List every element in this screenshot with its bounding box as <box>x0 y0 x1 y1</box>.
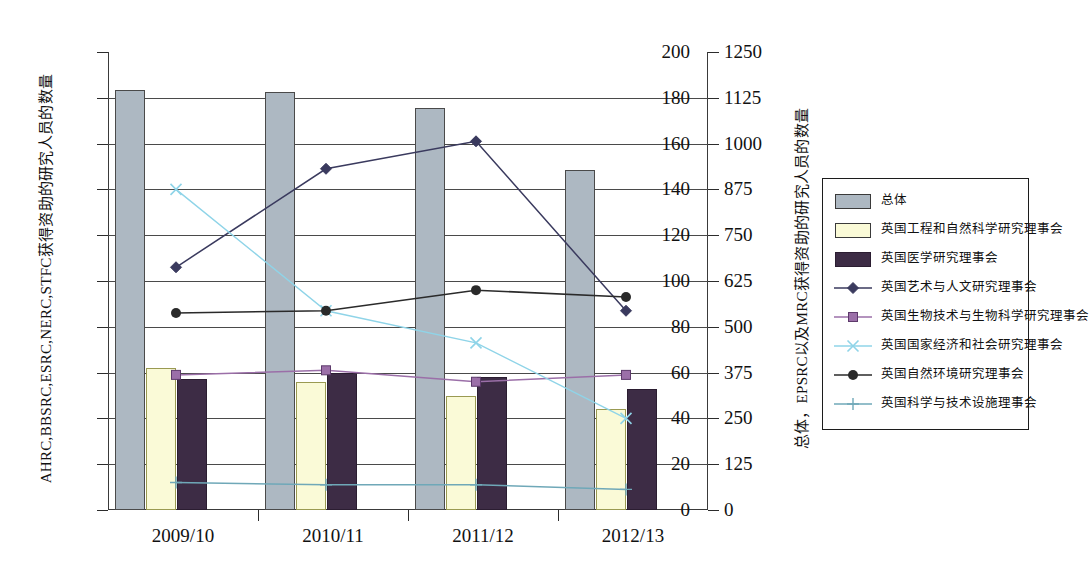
legend-item[interactable]: 英国自然环境研究理事会 <box>831 360 1022 389</box>
square-marker <box>622 370 631 379</box>
legend-item-label: 英国艺术与人文研究理事会 <box>881 281 1037 294</box>
y-axis-right-tick-label: 375 <box>724 363 784 382</box>
y-axis-right-tick-label: 1250 <box>724 42 784 61</box>
square-marker <box>472 377 481 386</box>
y-axis-right-tick-label: 0 <box>724 500 784 519</box>
x-axis-tick-label: 2012/13 <box>553 526 713 545</box>
plus-marker <box>320 479 332 491</box>
circle-marker <box>848 370 858 380</box>
y-axis-right-tick <box>708 281 719 282</box>
y-axis-left-tick <box>97 235 108 236</box>
square-marker <box>849 312 858 321</box>
legend-marker-cross <box>831 337 875 355</box>
line-path <box>176 141 626 310</box>
x-axis-tick-label: 2011/12 <box>403 526 563 545</box>
y-axis-left-tick <box>97 189 108 190</box>
legend-item[interactable]: 英国科学与技术设施理事会 <box>831 389 1022 418</box>
x-axis-tick <box>258 510 259 521</box>
y-axis-right-tick-label: 750 <box>724 225 784 244</box>
square-marker <box>322 366 331 375</box>
y-axis-left-tick <box>97 281 108 282</box>
y-axis-right-tick <box>708 464 719 465</box>
plus-marker <box>170 477 182 489</box>
diamond-marker <box>171 262 182 273</box>
legend-marker-plus <box>831 395 875 413</box>
x-axis-tick-label: 2009/10 <box>103 526 263 545</box>
legend-marker-diamond <box>831 279 875 297</box>
legend-item-label: 英国工程和自然科学研究理事会 <box>881 223 1063 236</box>
y-axis-right-tick-label: 125 <box>724 454 784 473</box>
legend-marker-swatch-mrc <box>831 250 875 268</box>
y-axis-right-tick <box>708 144 719 145</box>
legend-item-label: 英国生物技术与生物科学研究理事会 <box>881 310 1089 323</box>
circle-icon <box>831 366 875 384</box>
legend-item[interactable]: 英国艺术与人文研究理事会 <box>831 273 1022 302</box>
x-axis-tick <box>558 510 559 521</box>
legend-item-label: 英国医学研究理事会 <box>881 252 998 265</box>
line-path <box>176 290 626 313</box>
y-axis-left-tick <box>97 98 108 99</box>
plus-marker <box>620 483 632 495</box>
plus-icon <box>831 395 875 413</box>
legend-item[interactable]: 英国医学研究理事会 <box>831 244 1022 273</box>
y-axis-left-tick <box>97 373 108 374</box>
y-axis-left-tick <box>97 52 108 53</box>
legend-marker-swatch-total <box>831 192 875 210</box>
y-axis-right-tick <box>708 418 719 419</box>
cross-marker <box>471 337 482 348</box>
x-axis-tick <box>408 510 409 521</box>
circle-marker <box>171 308 181 318</box>
y-axis-right-tick <box>708 373 719 374</box>
square-icon <box>831 308 875 326</box>
legend-marker-circle <box>831 366 875 384</box>
legend-item[interactable]: 英国国家经济和社会研究理事会 <box>831 331 1022 360</box>
y-axis-right-tick <box>708 52 719 53</box>
y-axis-left-tick <box>97 510 108 511</box>
y-axis-right-tick <box>708 98 719 99</box>
line-path <box>176 483 626 490</box>
legend-item-label: 英国自然环境研究理事会 <box>881 368 1024 381</box>
legend-item-label: 英国国家经济和社会研究理事会 <box>881 339 1063 352</box>
legend-item[interactable]: 英国生物技术与生物科学研究理事会 <box>831 302 1022 331</box>
y-axis-left-tick <box>97 464 108 465</box>
line-series <box>171 285 631 318</box>
legend-marker-square <box>831 308 875 326</box>
x-axis-tick-label: 2010/11 <box>253 526 413 545</box>
y-axis-right-tick-label: 875 <box>724 179 784 198</box>
y-axis-right-tick <box>708 189 719 190</box>
line-series <box>172 366 631 386</box>
diamond-marker <box>848 282 859 293</box>
line-path <box>176 370 626 381</box>
circle-marker <box>621 292 631 302</box>
y-axis-left-title: AHRC,BBSRC,ESRC,NERC,STFC获得资助的研究人员的数量 <box>34 19 55 539</box>
line-series-layer <box>108 52 708 510</box>
legend-item-label: 总体 <box>881 194 907 207</box>
y-axis-left-tick <box>97 144 108 145</box>
swatch-mrc-icon <box>835 252 871 267</box>
y-axis-right-tick <box>708 327 719 328</box>
y-axis-right-tick-label: 625 <box>724 271 784 290</box>
circle-marker <box>471 285 481 295</box>
y-axis-right-tick <box>708 510 719 511</box>
y-axis-left-tick <box>97 327 108 328</box>
legend-marker-swatch-epsrc <box>831 221 875 239</box>
square-marker <box>172 370 181 379</box>
plus-marker <box>847 398 859 410</box>
cross-icon <box>831 337 875 355</box>
line-series <box>171 136 632 316</box>
circle-marker <box>321 306 331 316</box>
cross-marker <box>621 413 632 424</box>
legend-item[interactable]: 英国工程和自然科学研究理事会 <box>831 215 1022 244</box>
y-axis-right-tick-label: 500 <box>724 317 784 336</box>
y-axis-right-tick-label: 1000 <box>724 134 784 153</box>
cross-marker <box>171 184 182 195</box>
plot-area: 020406080100120140160180200 012525037550… <box>108 52 708 510</box>
y-axis-right-tick <box>708 235 719 236</box>
chart-legend: 总体英国工程和自然科学研究理事会英国医学研究理事会英国艺术与人文研究理事会英国生… <box>822 178 1029 430</box>
swatch-total-icon <box>835 194 871 209</box>
swatch-epsrc-icon <box>835 223 871 238</box>
legend-item[interactable]: 总体 <box>831 186 1022 215</box>
diamond-marker <box>321 163 332 174</box>
diamond-icon <box>831 279 875 297</box>
